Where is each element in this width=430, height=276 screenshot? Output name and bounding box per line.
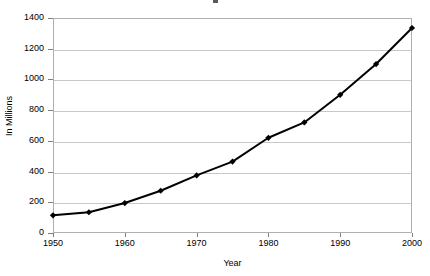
- y-tick-label: 1200: [4, 44, 44, 53]
- y-tick-mark: [48, 141, 53, 142]
- x-tick-label: 1970: [177, 238, 217, 248]
- x-axis-title: Year: [53, 258, 412, 268]
- x-tick-mark: [268, 233, 269, 237]
- x-tick-mark: [412, 233, 413, 237]
- x-tick-label: 1960: [105, 238, 145, 248]
- y-tick-mark: [48, 79, 53, 80]
- x-tick-mark: [197, 233, 198, 237]
- y-tick-mark: [48, 172, 53, 173]
- data-point-marker: [50, 212, 56, 218]
- x-tick-label: 1950: [33, 238, 73, 248]
- y-tick-label: 1000: [4, 74, 44, 83]
- y-tick-mark: [48, 18, 53, 19]
- y-tick-mark: [48, 110, 53, 111]
- y-tick-label: 0: [4, 228, 44, 237]
- series-line: [53, 28, 412, 215]
- x-tick-mark: [340, 233, 341, 237]
- x-tick-label: 1980: [248, 238, 288, 248]
- data-point-marker: [194, 172, 200, 178]
- data-point-marker: [122, 200, 128, 206]
- y-tick-label: 1400: [4, 13, 44, 22]
- y-tick-label: 200: [4, 197, 44, 206]
- y-tick-mark: [48, 202, 53, 203]
- y-tick-mark: [48, 49, 53, 50]
- data-series-line: [53, 18, 412, 233]
- x-tick-mark: [125, 233, 126, 237]
- data-point-marker: [86, 209, 92, 215]
- y-axis-title-label: In Millions: [4, 96, 14, 136]
- x-tick-mark: [53, 233, 54, 237]
- y-tick-label: 400: [4, 167, 44, 176]
- x-tick-label: 1990: [320, 238, 360, 248]
- cropped-title-artifact: [213, 0, 218, 3]
- data-point-marker: [158, 188, 164, 194]
- y-tick-label: 600: [4, 136, 44, 145]
- line-chart: In Millions Year 02004006008001000120014…: [0, 0, 430, 276]
- x-tick-label: 2000: [392, 238, 430, 248]
- y-tick-label: 800: [4, 105, 44, 114]
